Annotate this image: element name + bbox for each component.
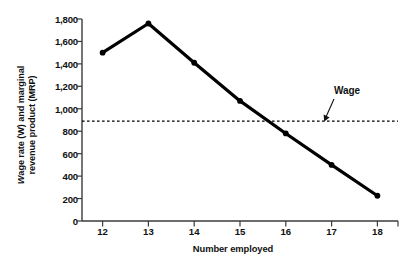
- data-point-marker: [237, 98, 243, 104]
- axes: [82, 19, 398, 221]
- data-point-marker: [374, 193, 380, 199]
- data-point-marker: [146, 21, 152, 27]
- data-point-marker: [283, 131, 289, 137]
- wage-annotation-arrow: [324, 99, 334, 122]
- mrp-line: [103, 23, 378, 195]
- plot-area: [0, 0, 406, 266]
- data-series-group: [100, 21, 381, 199]
- chart-figure: Wage rate (W) and marginal revenue produ…: [0, 0, 406, 266]
- data-point-marker: [329, 162, 335, 168]
- data-point-marker: [191, 60, 197, 66]
- x-axis-ticks: [103, 221, 398, 227]
- y-axis-ticks: [77, 19, 83, 221]
- data-point-marker: [100, 50, 106, 56]
